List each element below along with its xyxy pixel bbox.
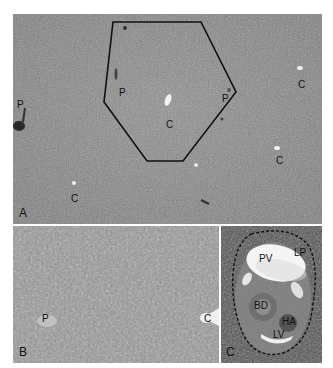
label-portal-inner-left: P xyxy=(119,88,126,98)
panel-b-medium-magnification: P C B xyxy=(13,226,219,363)
panel-letter-c: C xyxy=(226,346,235,358)
tissue-texture xyxy=(13,226,219,363)
panel-a-low-magnification: P P C P C C C A xyxy=(13,14,322,224)
label-central-vein-left-bottom: C xyxy=(71,194,78,204)
label-central-vein: C xyxy=(204,314,211,324)
label-central-vein-right-bottom: C xyxy=(276,156,283,166)
portal-tract-dashed-outline xyxy=(221,226,322,363)
label-central-vein-center: C xyxy=(166,120,173,130)
label-hepatic-artery: HA xyxy=(282,317,296,327)
label-bile-duct: BD xyxy=(254,301,268,311)
figure: P P C P C C C A P C B xyxy=(13,14,322,363)
panel-letter-a: A xyxy=(19,207,27,219)
label-limiting-plate: LP xyxy=(294,248,306,258)
label-portal-left: P xyxy=(17,100,24,110)
panel-c-portal-triad: PV LP BD HA LV C xyxy=(221,226,322,363)
label-portal-vein: PV xyxy=(259,254,272,264)
panel-letter-b: B xyxy=(19,346,27,358)
label-lymph-vessel: LV xyxy=(273,330,285,340)
label-portal: P xyxy=(42,314,49,324)
label-central-vein-right-top: C xyxy=(298,80,305,90)
label-portal-inner-right: P xyxy=(222,94,229,104)
